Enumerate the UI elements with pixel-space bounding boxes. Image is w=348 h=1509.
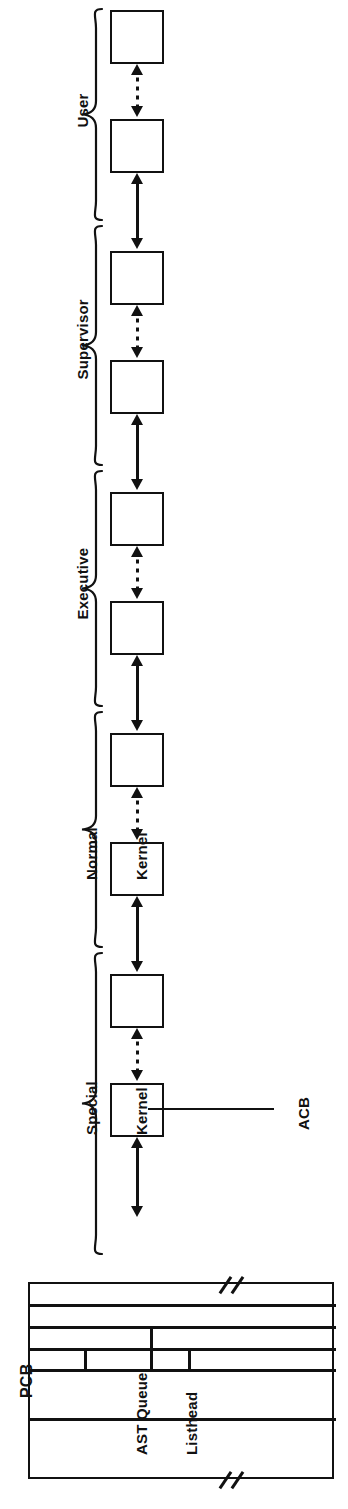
group-label-executive: Executive bbox=[58, 548, 108, 637]
link-solid bbox=[136, 184, 139, 238]
link-dotted bbox=[136, 317, 139, 347]
arrow-head-down bbox=[131, 106, 143, 117]
arrow-head-down bbox=[131, 347, 143, 358]
arrow-head-down bbox=[131, 588, 143, 599]
pcb-divider bbox=[30, 1304, 336, 1307]
pcb-divider bbox=[30, 1369, 336, 1372]
group-label-line: Executive bbox=[74, 548, 91, 620]
acb-node bbox=[110, 492, 164, 546]
arrow-head-up bbox=[131, 414, 143, 425]
arrow-head-up bbox=[131, 173, 143, 184]
acb-node bbox=[110, 251, 164, 305]
arrow-head-down bbox=[131, 961, 143, 972]
arrow-head-down bbox=[131, 720, 143, 731]
pcb-title: PCB bbox=[18, 1364, 36, 1398]
acb-node bbox=[110, 119, 164, 173]
pcb-divider bbox=[30, 1348, 336, 1351]
acb-node bbox=[110, 360, 164, 414]
pcb-subfield-tick bbox=[84, 1348, 87, 1369]
pcb-field-label: AST Queue Listhead bbox=[100, 1372, 234, 1455]
break-mark bbox=[231, 1471, 244, 1489]
group-label-line: Normal bbox=[84, 827, 101, 880]
acb-node bbox=[110, 10, 164, 64]
figure-canvas: ACB User Supervisor Executive Normal Ker… bbox=[0, 0, 348, 1509]
link-dotted bbox=[136, 1040, 139, 1070]
arrow-head-up bbox=[131, 64, 143, 75]
arrow-head-up bbox=[131, 546, 143, 557]
link-dotted bbox=[136, 558, 139, 588]
arrow-head-down bbox=[131, 1206, 143, 1217]
group-label-supervisor: Supervisor bbox=[58, 299, 108, 397]
acb-node bbox=[110, 974, 164, 1028]
acb-node bbox=[110, 733, 164, 787]
pcb-subfield-tick bbox=[188, 1348, 191, 1369]
arrow-head-up bbox=[131, 787, 143, 798]
link-solid bbox=[136, 907, 139, 961]
arrow-head-down bbox=[131, 479, 143, 490]
group-label-user: User bbox=[58, 93, 108, 145]
arrow-head-up bbox=[131, 896, 143, 907]
group-label-line: Kernel bbox=[134, 1081, 151, 1135]
link-solid bbox=[136, 425, 139, 479]
link-dotted bbox=[136, 799, 139, 829]
arrow-head-up bbox=[131, 1137, 143, 1148]
link-solid bbox=[136, 1148, 139, 1206]
pcb-subfield-tick bbox=[150, 1326, 153, 1369]
group-label-normal-kernel: Normal Kernel bbox=[50, 827, 184, 880]
arrow-head-up bbox=[131, 655, 143, 666]
group-label-line: User bbox=[74, 93, 91, 127]
pcb-divider bbox=[30, 1326, 336, 1329]
group-label-line: Kernel bbox=[134, 827, 151, 880]
link-solid bbox=[136, 666, 139, 720]
arrow-head-down bbox=[131, 238, 143, 249]
group-label-special-kernel: Special Kernel bbox=[50, 1081, 184, 1135]
break-mark bbox=[231, 1276, 244, 1294]
link-dotted bbox=[136, 76, 139, 106]
arrow-head-down bbox=[131, 1070, 143, 1081]
group-label-line: Supervisor bbox=[74, 299, 91, 379]
arrow-head-up bbox=[131, 1028, 143, 1039]
acb-node bbox=[110, 601, 164, 655]
arrow-head-up bbox=[131, 305, 143, 316]
pcb-field-label-line: AST Queue bbox=[134, 1372, 151, 1455]
acb-callout-label: ACB bbox=[296, 1097, 313, 1130]
group-label-line: Special bbox=[84, 1081, 101, 1135]
pcb-field-label-line: Listhead bbox=[184, 1372, 201, 1455]
